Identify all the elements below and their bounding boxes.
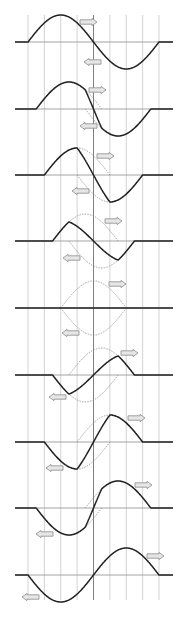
right-arrow-icon (80, 18, 97, 25)
wave-superposition-diagram (0, 0, 189, 617)
right-arrow-icon (97, 152, 114, 159)
left-arrow-icon (62, 329, 79, 336)
left-arrow-icon (63, 254, 80, 261)
left-arrow-icon (84, 58, 101, 65)
right-arrow-icon (121, 349, 138, 356)
left-moving-pulse-dotted (69, 241, 134, 268)
left-arrow-icon (46, 464, 63, 471)
left-arrow-icon (72, 187, 89, 194)
left-arrow-icon (22, 593, 39, 600)
left-arrow-icon (49, 393, 66, 400)
left-arrow-icon (36, 530, 53, 537)
panel-1 (15, 82, 173, 136)
left-arrow-icon (80, 122, 97, 129)
right-arrow-icon (89, 86, 106, 93)
right-moving-pulse-dotted (53, 214, 119, 241)
right-arrow-icon (109, 280, 126, 287)
diagram-canvas (0, 0, 189, 617)
right-arrow-icon (147, 552, 164, 559)
right-arrow-icon (105, 217, 122, 224)
right-arrow-icon (135, 481, 152, 488)
panel-0 (15, 15, 173, 69)
